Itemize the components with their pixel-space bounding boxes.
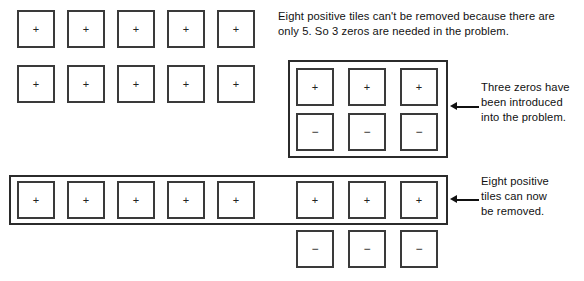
- tile-negative[interactable]: −: [348, 230, 386, 268]
- minus-icon: −: [415, 243, 422, 255]
- tile-positive[interactable]: +: [117, 10, 155, 48]
- tile-positive[interactable]: +: [17, 10, 55, 48]
- tile-positive[interactable]: +: [296, 68, 334, 106]
- plus-icon: +: [183, 24, 189, 35]
- arrow-shaft: [456, 199, 479, 201]
- tile-positive[interactable]: +: [400, 181, 438, 219]
- tile-positive[interactable]: +: [167, 65, 205, 103]
- plus-icon: +: [33, 79, 39, 90]
- arrow-shaft: [456, 106, 479, 108]
- tile-positive[interactable]: +: [348, 68, 386, 106]
- minus-icon: −: [311, 126, 318, 138]
- tile-positive[interactable]: +: [217, 65, 255, 103]
- plus-icon: +: [312, 195, 318, 206]
- plus-icon: +: [233, 195, 239, 206]
- tile-positive[interactable]: +: [296, 181, 334, 219]
- tile-positive[interactable]: +: [348, 181, 386, 219]
- plus-icon: +: [33, 24, 39, 35]
- tile-positive[interactable]: +: [67, 65, 105, 103]
- tile-negative[interactable]: −: [348, 113, 386, 151]
- plus-icon: +: [133, 24, 139, 35]
- arrow-to-zero-pairs-group: [450, 102, 479, 111]
- plus-icon: +: [33, 195, 39, 206]
- plus-icon: +: [312, 82, 318, 93]
- plus-icon: +: [133, 79, 139, 90]
- tile-positive[interactable]: +: [217, 181, 255, 219]
- plus-icon: +: [133, 195, 139, 206]
- plus-icon: +: [83, 79, 89, 90]
- diagram-canvas: + + + + + + + + + + Eight positive til: [0, 0, 584, 281]
- plus-icon: +: [416, 82, 422, 93]
- tile-positive[interactable]: +: [400, 68, 438, 106]
- tile-positive[interactable]: +: [17, 65, 55, 103]
- tile-negative[interactable]: −: [296, 113, 334, 151]
- tile-negative[interactable]: −: [400, 230, 438, 268]
- tile-positive[interactable]: +: [167, 10, 205, 48]
- tile-positive[interactable]: +: [67, 181, 105, 219]
- plus-icon: +: [83, 195, 89, 206]
- minus-icon: −: [311, 243, 318, 255]
- plus-icon: +: [183, 79, 189, 90]
- note-middle: Three zeros have been introduced into th…: [481, 80, 581, 125]
- minus-icon: −: [363, 126, 370, 138]
- tile-negative[interactable]: −: [296, 230, 334, 268]
- tile-negative[interactable]: −: [400, 113, 438, 151]
- tile-positive[interactable]: +: [167, 181, 205, 219]
- minus-icon: −: [363, 243, 370, 255]
- note-top: Eight positive tiles can't be removed be…: [278, 9, 578, 39]
- plus-icon: +: [364, 195, 370, 206]
- tile-positive[interactable]: +: [117, 181, 155, 219]
- plus-icon: +: [233, 24, 239, 35]
- tile-positive[interactable]: +: [217, 10, 255, 48]
- minus-icon: −: [415, 126, 422, 138]
- arrow-to-eight-positives-group: [450, 195, 479, 204]
- tile-positive[interactable]: +: [117, 65, 155, 103]
- tile-positive[interactable]: +: [17, 181, 55, 219]
- plus-icon: +: [364, 82, 370, 93]
- note-bottom: Eight positive tiles can now be removed.: [481, 174, 581, 219]
- plus-icon: +: [416, 195, 422, 206]
- plus-icon: +: [83, 24, 89, 35]
- plus-icon: +: [183, 195, 189, 206]
- plus-icon: +: [233, 79, 239, 90]
- tile-positive[interactable]: +: [67, 10, 105, 48]
